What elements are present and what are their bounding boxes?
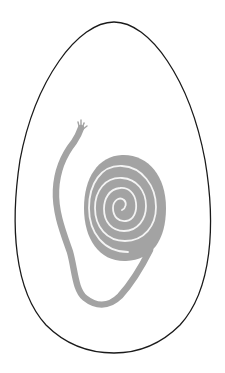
illustration-svg <box>0 0 225 373</box>
frayed-tip-icon <box>78 120 87 130</box>
illustration-canvas <box>0 0 225 373</box>
spiral-coil <box>84 155 166 261</box>
